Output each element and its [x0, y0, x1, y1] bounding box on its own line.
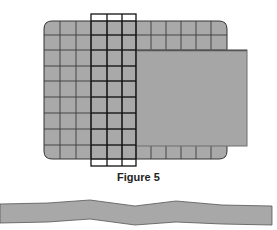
figure-caption: Figure 5: [0, 171, 277, 183]
wavy-strip: [0, 200, 272, 225]
figure-diagram: [0, 0, 277, 230]
overlay-sheet: [136, 50, 247, 146]
